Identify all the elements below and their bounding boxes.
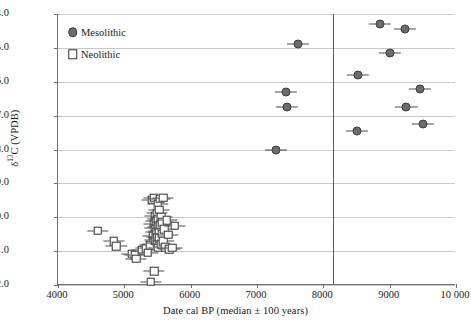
x-tick-mark [257, 284, 258, 288]
open-square-icon [168, 243, 177, 252]
y-tick-label: −21.0 [0, 245, 9, 255]
open-square-icon [170, 221, 179, 230]
open-square-icon [66, 49, 79, 60]
x-tick-mark [456, 284, 457, 288]
x-tick-label: 8000 [312, 289, 333, 300]
y-tick-mark [54, 48, 58, 49]
x-tick-label: 5000 [113, 289, 134, 300]
y-tick-label: −16.0 [0, 76, 9, 86]
open-square-icon [143, 249, 152, 258]
y-tick-mark [54, 183, 58, 184]
legend-item-mesolithic: Mesolithic [66, 21, 126, 43]
open-square-icon [159, 193, 168, 202]
gridline-y [58, 82, 455, 83]
x-tick-label: 9000 [378, 289, 399, 300]
open-square-icon [164, 231, 173, 240]
open-square-icon [147, 277, 156, 286]
filled-circle-icon [66, 27, 79, 38]
x-tick-mark [323, 284, 324, 288]
chart-legend: Mesolithic Neolithic [66, 21, 126, 65]
filled-circle-icon [415, 84, 424, 93]
filled-circle-icon [385, 48, 394, 57]
filled-circle-icon [282, 103, 291, 112]
gridline-y [58, 150, 455, 151]
x-tick-label: 4000 [47, 289, 68, 300]
open-square-icon [112, 242, 121, 251]
open-square-icon [132, 254, 141, 263]
y-tick-mark [54, 150, 58, 151]
x-tick-mark [58, 284, 59, 288]
y-tick-label: −14.0 [0, 8, 9, 18]
gridline-y [58, 14, 455, 15]
y-tick-mark [54, 116, 58, 117]
x-tick-label: 6000 [179, 289, 200, 300]
scatter-plot-figure: δ13C (VPDB) Mesolithic Neolithic Date ca… [0, 0, 471, 326]
y-tick-label: −17.0 [0, 110, 9, 120]
x-tick-label: 7000 [246, 289, 267, 300]
filled-circle-icon [271, 145, 280, 154]
gridline-y [58, 116, 455, 117]
y-tick-mark [54, 217, 58, 218]
filled-circle-icon [281, 87, 290, 96]
y-tick-label: −18.0 [0, 144, 9, 154]
y-tick-label: −19.0 [0, 177, 9, 187]
filled-circle-icon [352, 126, 361, 135]
period-boundary [333, 14, 334, 284]
x-tick-mark [191, 284, 192, 288]
filled-circle-icon [375, 20, 384, 29]
filled-circle-icon [418, 120, 427, 129]
y-tick-label: −20.0 [0, 211, 9, 221]
y-tick-mark [54, 14, 58, 15]
legend-item-neolithic: Neolithic [66, 43, 126, 65]
y-tick-mark [54, 82, 58, 83]
filled-circle-icon [294, 40, 303, 49]
y-tick-label: −22.0 [0, 279, 9, 289]
y-tick-label: −15.0 [0, 42, 9, 52]
filled-circle-icon [400, 25, 409, 34]
gridline-y [58, 251, 455, 252]
filled-circle-icon [402, 103, 411, 112]
y-tick-mark [54, 251, 58, 252]
gridline-y [58, 217, 455, 218]
filled-circle-icon [353, 70, 362, 79]
open-square-icon [150, 267, 159, 276]
x-tick-label: 10 000 [441, 289, 470, 300]
x-tick-mark [124, 284, 125, 288]
gridline-y [58, 183, 455, 184]
x-tick-mark [390, 284, 391, 288]
open-square-icon [94, 227, 103, 236]
y-axis-title-text: δ13C (VPDB) [8, 110, 19, 167]
legend-label-neolithic: Neolithic [81, 49, 120, 60]
legend-label-mesolithic: Mesolithic [81, 27, 126, 38]
x-axis-title: Date cal BP (median ± 100 years) [0, 305, 471, 316]
